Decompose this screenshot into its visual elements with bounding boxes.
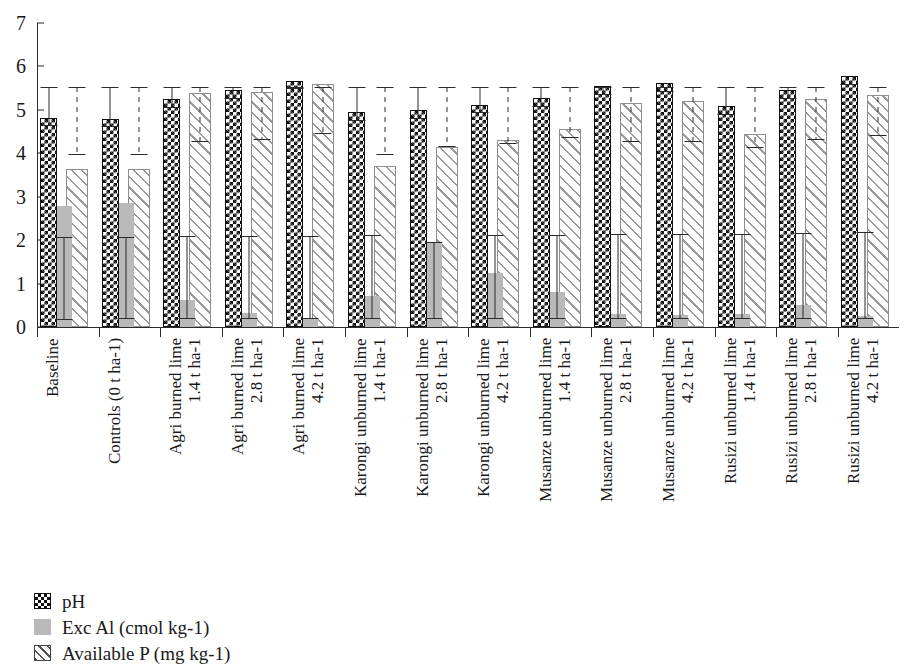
error-bar-part <box>315 133 332 134</box>
error-bar-part <box>610 234 627 235</box>
x-axis-label: Karongi unburned lime 4.2 t ha-1 <box>474 338 512 553</box>
error-bar-part <box>841 84 858 85</box>
exc-al-error-bar <box>426 242 442 319</box>
ph-error-bar <box>40 87 57 127</box>
error-bar-part <box>569 87 570 138</box>
error-bar-part <box>869 135 886 136</box>
error-bar-part <box>56 237 73 238</box>
error-bar-part <box>631 87 632 143</box>
error-bar-part <box>779 87 796 88</box>
bar-group <box>471 23 519 327</box>
x-tick-mark <box>715 328 716 337</box>
x-axis-label: Rusizi unburned lime 1.4 t ha-1 <box>721 338 759 553</box>
available-p-error-bar <box>66 87 88 156</box>
error-bar-part <box>192 141 209 142</box>
bar-group <box>841 23 889 327</box>
x-axis-label: Karongi unburned lime 1.4 t ha-1 <box>351 338 389 553</box>
x-axis-label: Musanze unburned lime 2.8 t ha-1 <box>597 338 635 553</box>
ph-error-bar <box>102 87 119 127</box>
exc-al-error-bar <box>610 234 626 319</box>
error-bar-part <box>500 143 517 144</box>
available-p-error-bar <box>189 87 211 143</box>
error-bar-part <box>163 107 180 108</box>
error-bar-part <box>323 87 324 134</box>
error-bar-part <box>856 232 873 233</box>
bar-group <box>718 23 766 327</box>
error-bar-part <box>425 318 442 319</box>
error-bar-part <box>533 87 550 88</box>
exc-al-error-bar <box>795 233 811 319</box>
bar-group <box>348 23 396 327</box>
error-bar-part <box>377 154 394 155</box>
ph-error-bar <box>348 87 365 121</box>
error-bar-part <box>623 87 640 88</box>
error-bar-part <box>125 237 126 320</box>
error-bar-part <box>117 318 134 319</box>
bar-group <box>40 23 88 327</box>
x-axis-label: Agri burned lime 2.8 t ha-1 <box>228 338 266 553</box>
error-bar-part <box>548 318 565 319</box>
exc-al-error-bar <box>672 234 688 320</box>
x-tick-mark <box>160 328 161 337</box>
exc-al-error-bar <box>241 236 257 319</box>
error-bar-part <box>225 98 242 99</box>
error-bar-part <box>348 120 365 121</box>
error-bar-part <box>816 87 817 140</box>
y-tick-label: 6 <box>0 56 26 76</box>
error-bar-part <box>500 87 517 88</box>
legend-item: pH <box>34 588 230 614</box>
error-bar-part <box>808 87 825 88</box>
available-p-error-bar <box>251 87 273 140</box>
ph-bar <box>779 90 796 327</box>
error-bar-part <box>418 87 419 119</box>
error-bar-part <box>192 87 209 88</box>
error-bar-part <box>438 146 455 147</box>
exc-al-error-bar <box>734 234 750 319</box>
error-bar-part <box>425 242 442 243</box>
error-bar-part <box>561 87 578 88</box>
x-tick-mark <box>530 328 531 337</box>
error-bar-part <box>733 234 750 235</box>
ph-error-bar <box>533 87 550 107</box>
x-axis-label: Baseline <box>43 338 62 553</box>
y-tick-label: 4 <box>0 143 26 163</box>
x-tick-mark <box>653 328 654 337</box>
exc-al-error-bar <box>487 235 503 319</box>
legend-item: Available P (mg kg-1) <box>34 640 230 666</box>
error-bar-part <box>446 87 447 147</box>
error-bar-part <box>310 236 311 319</box>
error-bar-part <box>40 125 57 126</box>
bar-group <box>163 23 211 327</box>
x-axis-label: Rusizi unburned lime 4.2 t ha-1 <box>844 338 882 553</box>
x-tick-mark <box>222 328 223 337</box>
x-tick-mark <box>468 328 469 337</box>
error-bar-part <box>746 147 763 148</box>
error-bar-part <box>179 236 196 237</box>
error-bar-part <box>548 235 565 236</box>
error-bar-part <box>163 87 180 88</box>
error-bar-part <box>117 237 134 238</box>
ph-bar <box>410 110 427 327</box>
y-tick-label: 5 <box>0 100 26 120</box>
error-bar-part <box>286 88 303 89</box>
exc-al-error-bar <box>364 235 380 319</box>
error-bar-part <box>410 118 427 119</box>
error-bar-part <box>856 318 873 319</box>
y-tick-label: 7 <box>0 13 26 33</box>
error-bar-part <box>315 87 332 88</box>
error-bar-part <box>253 87 270 88</box>
x-tick-mark <box>345 328 346 337</box>
error-bar-part <box>69 154 86 155</box>
error-bar-part <box>618 234 619 319</box>
exc-al-error-bar <box>549 235 565 320</box>
ph-bar <box>718 106 735 327</box>
ph-error-bar <box>841 84 858 85</box>
error-bar-part <box>808 139 825 140</box>
error-bar-part <box>693 87 694 143</box>
exc-al-swatch-icon <box>34 619 51 635</box>
ph-bar <box>656 83 673 327</box>
ph-error-bar <box>779 87 796 99</box>
x-tick-mark <box>37 328 38 337</box>
y-tick-label: 2 <box>0 230 26 250</box>
error-bar-part <box>685 87 702 88</box>
